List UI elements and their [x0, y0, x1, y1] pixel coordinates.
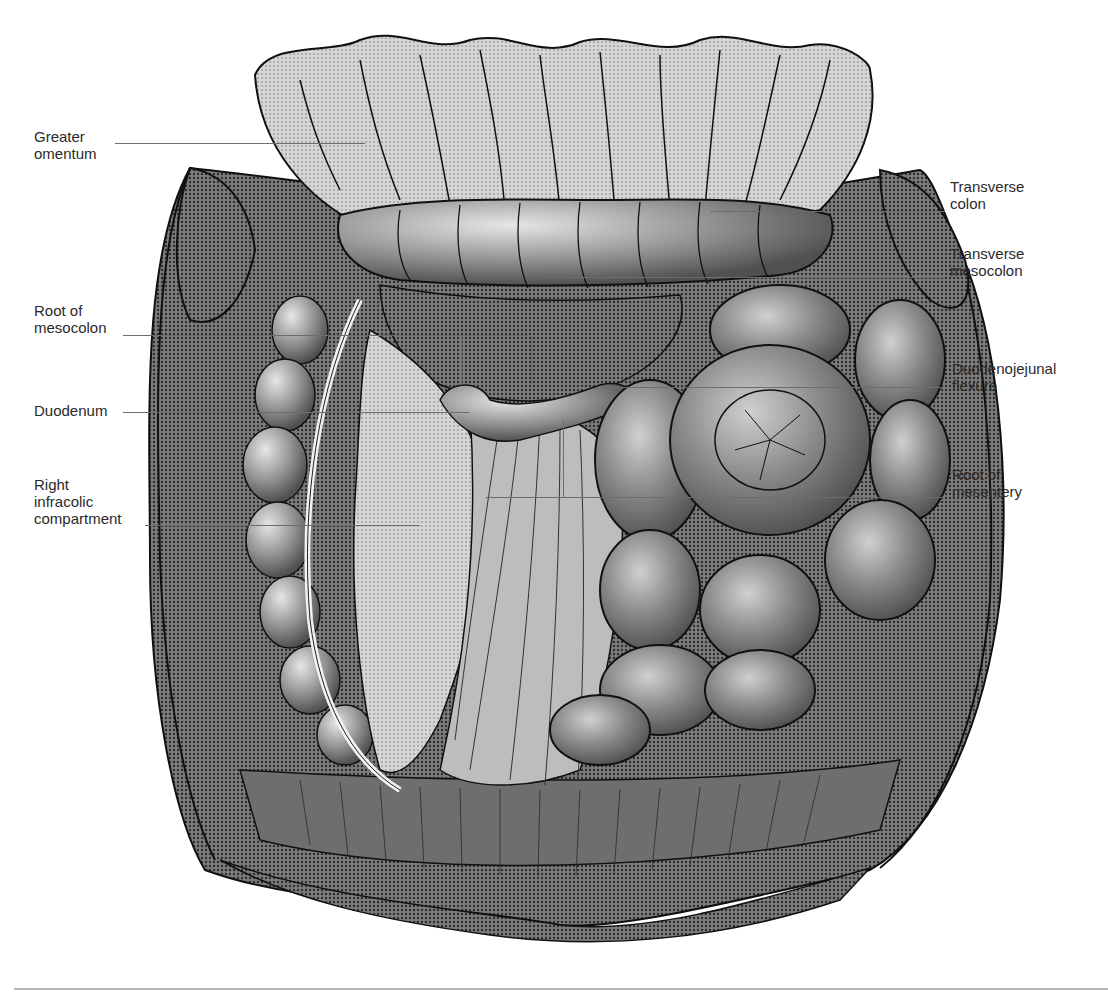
anatomy-illustration	[0, 0, 1108, 999]
label-transverse-colon: Transverse colon	[950, 178, 1024, 212]
leader-line-root-of-mesentery	[486, 497, 945, 498]
label-transverse-mesocolon: Transverse mesocolon	[950, 245, 1024, 279]
bottom-divider	[14, 988, 1108, 990]
leader-line-duodenojejunal-flexure	[612, 387, 945, 388]
leader-tick-root-of-mesocolon-1	[461, 335, 462, 385]
leader-line-right-infracolic-compartment	[145, 525, 420, 526]
leader-line-transverse-mesocolon	[545, 277, 945, 278]
leader-line-root-of-mesocolon	[123, 335, 530, 336]
leader-line-transverse-colon	[710, 211, 945, 212]
label-root-of-mesocolon: Root of mesocolon	[34, 302, 107, 336]
leader-tick-root-of-mesentery	[563, 420, 564, 497]
leader-line-duodenum	[123, 412, 470, 413]
anatomy-figure: Greater omentum Root of mesocolon Duoden…	[0, 0, 1108, 999]
transverse-colon-shape	[338, 199, 832, 288]
label-greater-omentum: Greater omentum	[34, 128, 97, 162]
label-duodenojejunal-flexure: Duodenojejunal flexure	[952, 360, 1056, 394]
label-duodenum: Duodenum	[34, 402, 107, 419]
label-root-of-mesentery: Root of mesentery	[952, 466, 1022, 500]
leader-tick-root-of-mesocolon-2	[531, 335, 532, 385]
leader-line-greater-omentum	[115, 143, 365, 144]
label-right-infracolic-compartment: Right infracolic compartment	[34, 476, 122, 527]
